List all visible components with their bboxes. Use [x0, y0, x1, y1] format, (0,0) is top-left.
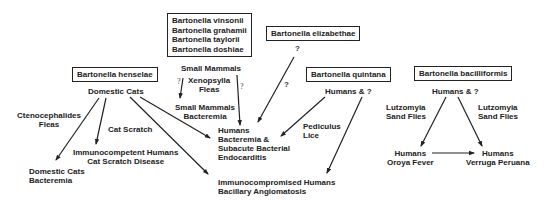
label-bacillary-angiomatosis: Bacillary Angiomatosis [218, 187, 335, 196]
label-endocarditis: Endocarditis [218, 153, 290, 162]
box-bartonella-bacilliformis: Bartonella bacilliformis [414, 66, 512, 81]
node-domestic-cats: Domestic Cats [88, 87, 144, 96]
box-bartonella-quintana: Bartonella quintana [306, 67, 391, 82]
label-lutzomyia: Lutzomyia [386, 103, 426, 112]
label-domestic-cats: Domestic Cats [29, 167, 85, 176]
label-fleas: Fleas [17, 120, 81, 129]
box-small-mammal-species: Bartonella vinsonii Bartonella grahamii … [167, 13, 252, 57]
label-taylorii: Bartonella taylorii [172, 35, 247, 45]
label-xenopsylla: Xenopsylla [188, 76, 230, 85]
node-immunocompromised-humans: Immunocompromised Humans Bacillary Angio… [218, 178, 335, 196]
label-elizabethae: Bartonella elizabethae [271, 29, 355, 38]
node-lutzomyia-right: Lutzomyia Sand Flies [478, 103, 518, 121]
label-vinsonii: Bartonella vinsonii [172, 16, 247, 26]
label-subacute-bacterial: Subacute Bacterial [218, 144, 290, 153]
label-doshiae: Bartonella doshiae [172, 45, 247, 55]
label-fleas: Fleas [188, 85, 230, 94]
label-sand-flies: Sand Flies [386, 112, 426, 121]
label-humans: Humans [218, 126, 290, 135]
node-pediculus-lice: Pediculus Lice [303, 122, 341, 140]
label-grahamii: Bartonella grahamii [172, 26, 247, 36]
label-henselae: Bartonella henselae [77, 70, 153, 79]
box-bartonella-elizabethae: Bartonella elizabethae [266, 26, 360, 41]
label-humans: Humans [466, 149, 530, 158]
question-mark-elizabethae-mid: ? [284, 80, 289, 89]
node-quintana-host: Humans & ? [325, 87, 372, 96]
label-oroya-fever: Oroya Fever [387, 158, 434, 167]
arrow-elizabethae-to-humans [258, 57, 294, 122]
arrow-cats-to-immunocompetent [96, 98, 106, 144]
label-cat-scratch-disease: Cat Scratch Disease [73, 157, 178, 166]
box-bartonella-henselae: Bartonella henselae [72, 67, 158, 82]
label-humans: Humans [387, 149, 434, 158]
node-immunocompetent-humans: Immunocompetent Humans Cat Scratch Disea… [73, 148, 178, 166]
node-humans-oroya-fever: Humans Oroya Fever [387, 149, 434, 167]
node-domestic-cats-bacteremia: Domestic Cats Bacteremia [29, 167, 85, 185]
node-bacilliformis-host: Humans & ? [432, 87, 479, 96]
label-bacteremia: Bacteremia [29, 176, 85, 185]
label-verruga-peruana: Verruga Peruana [466, 158, 530, 167]
label-lutzomyia: Lutzomyia [478, 103, 518, 112]
label-lice: Lice [303, 131, 341, 140]
node-small-mammals-bacteremia: Small Mammals Bacteremia [175, 103, 235, 121]
node-xenopsylla-fleas: Xenopsylla Fleas [188, 76, 230, 94]
question-mark-xenopsylla: ? [177, 77, 181, 86]
label-immunocompetent: Immunocompetent Humans [73, 148, 178, 157]
label-quintana: Bartonella quintana [311, 70, 386, 79]
node-lutzomyia-left: Lutzomyia Sand Flies [386, 103, 426, 121]
label-bacteremia: Bacteremia [175, 112, 235, 121]
label-sand-flies: Sand Flies [478, 112, 518, 121]
label-ctenocephalides: Ctenocephalides [17, 111, 81, 120]
question-mark-small-mammals: ? [240, 82, 244, 91]
label-pediculus: Pediculus [303, 122, 341, 131]
node-ctenocephalides-fleas: Ctenocephalides Fleas [17, 111, 81, 129]
question-mark-elizabethae-top: ? [295, 44, 300, 53]
label-small-mammals: Small Mammals [175, 103, 235, 112]
node-humans-endocarditis: Humans Bacteremia & Subacute Bacterial E… [218, 126, 290, 162]
node-small-mammals: Small Mammals [181, 64, 241, 73]
bartonella-transmission-diagram: Bartonella henselae Bartonella vinsonii … [0, 0, 547, 202]
node-humans-verruga-peruana: Humans Verruga Peruana [466, 149, 530, 167]
label-bacteremia-and: Bacteremia & [218, 135, 290, 144]
label-bacilliformis: Bartonella bacilliformis [419, 69, 507, 78]
label-immunocompromised: Immunocompromised Humans [218, 178, 335, 187]
node-cat-scratch: Cat Scratch [108, 125, 152, 134]
